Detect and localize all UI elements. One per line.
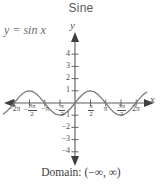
y-axis-arrow-down	[71, 156, 79, 166]
y-tick-label: −3	[57, 134, 70, 143]
sine-function-figure: Sine y = sin x	[0, 0, 162, 185]
y-tick-label: −2	[57, 122, 70, 131]
fraction: 3π 2	[117, 103, 126, 118]
y-tick-label: 3	[58, 61, 70, 70]
y-tick-label: 4	[58, 49, 70, 58]
sine-plot-canvas	[0, 0, 162, 185]
y-tick-label: 1	[58, 85, 70, 94]
x-tick-label: 3π 2	[113, 103, 130, 118]
x-tick-label: − 3π 2	[20, 103, 40, 118]
fraction: 3π 2	[28, 103, 37, 118]
domain-statement: Domain: (−∞, ∞)	[0, 166, 162, 178]
fraction: π 2	[59, 103, 65, 118]
fraction: π 2	[88, 103, 94, 118]
x-tick-label: π	[99, 105, 112, 113]
y-tick-label: 2	[58, 73, 70, 82]
y-tick-label: −4	[57, 146, 70, 155]
y-axis-label: y	[70, 19, 75, 31]
x-tick-label: − π 2	[51, 103, 69, 118]
x-axis-label: x	[150, 93, 155, 105]
y-axis-arrow-up	[71, 32, 79, 42]
x-tick-label: π 2	[84, 103, 98, 118]
